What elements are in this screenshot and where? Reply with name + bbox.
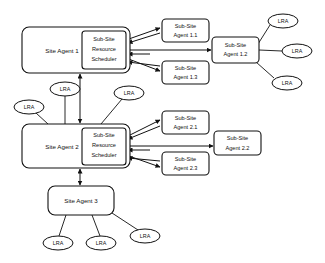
lra-node-m1[interactable]: LRA (50, 82, 80, 96)
sub-site-agent-1-3-line2: Agent 1.3 (174, 74, 198, 80)
lra-m2-label: LRA (24, 104, 35, 110)
sub-site-agent-2-1-line1: Sub-Site (175, 115, 196, 121)
lra-m3-label: LRA (124, 90, 135, 96)
sub-site-agent-2-1[interactable]: Sub-Site Agent 2.1 (162, 111, 209, 134)
lra-node-m2[interactable]: LRA (14, 100, 44, 114)
sub-site-agent-2-2-line2: Agent 2.2 (226, 145, 250, 151)
lra-node-m3[interactable]: LRA (114, 86, 144, 100)
lra-b3-label: LRA (140, 233, 151, 239)
scheduler-2-line1: Sub-Site (93, 132, 114, 138)
sub-site-agent-2-1-line2: Agent 2.1 (174, 124, 198, 130)
edge-subsite-1-2-lra-r3 (256, 62, 274, 78)
scheduler-2-line2: Resource (92, 142, 116, 148)
lra-node-b3[interactable]: LRA (130, 229, 160, 243)
edge-subsite-1-2-lra-r1 (258, 25, 270, 44)
sub-site-agent-1-1[interactable]: Sub-Site Agent 1.1 (162, 19, 209, 42)
lra-node-b1[interactable]: LRA (43, 236, 73, 250)
lra-r2-label: LRA (292, 48, 303, 54)
edge-subsite-1-2-lra-r2 (259, 50, 282, 51)
sub-site-agent-2-2-line1: Sub-Site (227, 135, 248, 141)
edge-site2-lra-m3 (101, 99, 122, 124)
scheduler-1-line1: Sub-Site (93, 36, 114, 42)
sub-site-agent-1-3-line1: Sub-Site (175, 65, 196, 71)
scheduler-2-line3: Scheduler (91, 152, 116, 158)
sub-site-agent-1-2-line1: Sub-Site (225, 42, 246, 48)
edge-scheduler1-to-subsite-1-3 (126, 58, 160, 71)
edge-site3-lra-b2 (92, 215, 100, 236)
sub-site-agent-1-1-line1: Sub-Site (175, 23, 196, 29)
site-agent-2-label: Site Agent 2 (45, 143, 79, 150)
edge-site3-lra-b3 (112, 213, 138, 230)
sub-site-agent-2-3-line1: Sub-Site (175, 156, 196, 162)
sub-site-agent-1-2-line2: Agent 1.2 (224, 51, 248, 57)
site-agent-3-label: Site Agent 3 (64, 197, 98, 204)
sub-site-agent-1-1-line2: Agent 1.1 (174, 32, 198, 38)
lra-node-r2[interactable]: LRA (282, 44, 312, 58)
scheduler-1-line2: Resource (92, 46, 116, 52)
site-agent-2[interactable]: Site Agent 2 Sub-Site Resource Scheduler (22, 124, 130, 168)
edge-site3-lra-b1 (59, 215, 66, 236)
lra-m1-label: LRA (60, 86, 71, 92)
lra-r3-label: LRA (282, 80, 293, 86)
sub-site-agent-1-2[interactable]: Sub-Site Agent 1.2 (212, 37, 259, 63)
sub-site-agent-2-3[interactable]: Sub-Site Agent 2.3 (162, 152, 209, 175)
scheduler-1-line3: Scheduler (91, 56, 116, 62)
edge-site2-lra-m2 (36, 113, 48, 124)
architecture-diagram: Site Agent 1 Sub-Site Resource Scheduler… (0, 0, 325, 263)
lra-node-b2[interactable]: LRA (86, 236, 116, 250)
diagram-canvas: Site Agent 1 Sub-Site Resource Scheduler… (0, 0, 325, 263)
site-agent-1-label: Site Agent 1 (45, 47, 79, 54)
lra-b1-label: LRA (53, 240, 64, 246)
lra-node-r1[interactable]: LRA (268, 14, 298, 28)
lra-b2-label: LRA (96, 240, 107, 246)
site-agent-3[interactable]: Site Agent 3 (48, 186, 114, 215)
lra-r1-label: LRA (278, 18, 289, 24)
site-agent-1[interactable]: Site Agent 1 Sub-Site Resource Scheduler (22, 27, 130, 73)
edge-subsite-2-3-to-scheduler2 (128, 158, 160, 161)
lra-node-r3[interactable]: LRA (272, 76, 302, 90)
sub-site-agent-2-2[interactable]: Sub-Site Agent 2.2 (214, 131, 261, 155)
sub-site-agent-2-3-line2: Agent 2.3 (174, 165, 198, 171)
sub-site-agent-1-3[interactable]: Sub-Site Agent 1.3 (162, 61, 209, 84)
sub-site-agent-1-2-box[interactable] (212, 37, 259, 63)
